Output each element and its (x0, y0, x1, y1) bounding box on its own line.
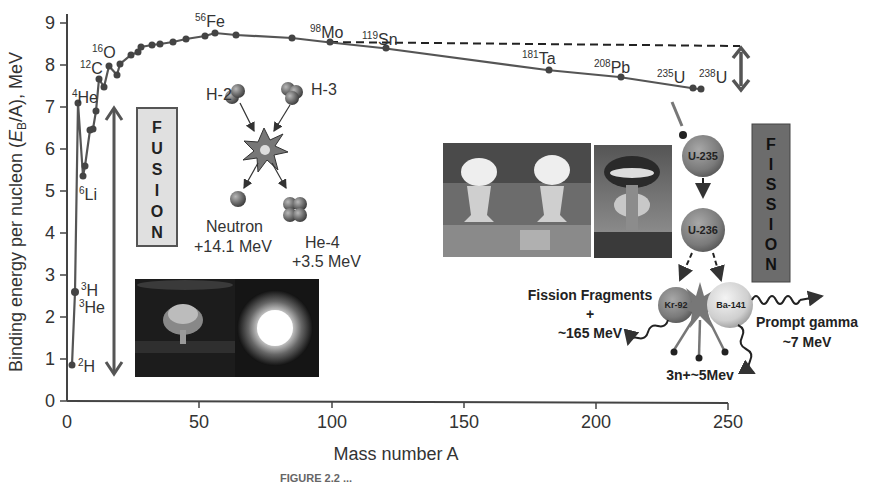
svg-text:F: F (152, 119, 162, 136)
svg-text:N: N (765, 256, 777, 273)
svg-text:Ba-141: Ba-141 (716, 300, 746, 310)
svg-text:7: 7 (45, 97, 55, 117)
figure-caption: FIGURE 2.2 ... (280, 472, 352, 484)
h3-nucleus-icon (281, 82, 303, 105)
incoming-neutron-icon (679, 131, 687, 139)
svg-text:0: 0 (45, 391, 55, 411)
svg-text:50: 50 (189, 412, 209, 432)
svg-text:N: N (151, 224, 163, 241)
mushroom-cloud-photo (594, 145, 672, 258)
label-98Mo: 98Mo (310, 23, 343, 41)
svg-text:H-3: H-3 (311, 81, 337, 98)
svg-text:I: I (155, 182, 159, 199)
label-6Li: 6Li (79, 185, 97, 203)
svg-text:U-235: U-235 (688, 150, 718, 162)
svg-text:O: O (151, 203, 163, 220)
svg-text:3: 3 (45, 265, 55, 285)
svg-text:3n+~5Mev: 3n+~5Mev (666, 367, 734, 383)
svg-text:0: 0 (62, 412, 72, 432)
svg-text:5: 5 (45, 181, 55, 201)
fusion-photo (135, 279, 319, 377)
label-119Sn: 119Sn (362, 30, 398, 48)
svg-text:U: U (151, 140, 163, 157)
svg-text:~165 MeV: ~165 MeV (558, 325, 623, 341)
svg-text:F: F (766, 136, 776, 153)
x-tick-labels: 0 50 100 150 200 250 (62, 412, 743, 432)
fusion-reaction-diagram (225, 82, 307, 222)
neutron-icon (230, 191, 246, 207)
svg-text:Kr-92: Kr-92 (664, 300, 687, 310)
svg-text:S: S (766, 196, 777, 213)
label-208Pb: 208Pb (594, 58, 630, 76)
svg-text:4: 4 (45, 223, 55, 243)
label-3He: 3He (79, 298, 105, 316)
label-12C: 12C (80, 59, 103, 77)
svg-text:250: 250 (713, 412, 743, 432)
svg-text:He-4: He-4 (305, 234, 340, 251)
svg-text:+14.1 MeV: +14.1 MeV (194, 238, 272, 255)
label-56Fe: 56Fe (195, 12, 225, 30)
svg-text:+3.5 MeV: +3.5 MeV (292, 253, 361, 270)
svg-text:+: + (586, 306, 594, 322)
svg-text:1: 1 (45, 349, 55, 369)
power-plant-photo (443, 143, 591, 257)
label-3H: 3H (81, 281, 98, 299)
svg-text:6: 6 (45, 139, 55, 159)
svg-text:Neutron: Neutron (206, 218, 263, 235)
label-2H: 2H (78, 357, 95, 375)
svg-text:100: 100 (317, 412, 347, 432)
label-238U: 238U (699, 68, 727, 86)
svg-text:8: 8 (45, 55, 55, 75)
svg-text:H-2: H-2 (206, 86, 232, 103)
y-tick-labels: 0 1 2 3 4 5 6 7 8 9 (45, 13, 55, 411)
svg-text:I: I (769, 216, 773, 233)
he4-nucleus-icon (283, 197, 307, 222)
svg-text:U-236: U-236 (688, 224, 718, 236)
svg-text:Prompt gamma: Prompt gamma (756, 314, 858, 330)
binding-energy-chart: 0 1 2 3 4 5 6 7 8 9 0 50 100 150 200 250… (0, 0, 870, 485)
incoming-neutron-track (672, 102, 682, 126)
svg-text:S: S (766, 176, 777, 193)
fusion-labels: H-2 H-3 Neutron +14.1 MeV He-4 +3.5 MeV (194, 81, 361, 270)
fusion-vertical-arrow-icon (106, 108, 122, 374)
svg-text:9: 9 (45, 13, 55, 33)
x-axis-label: Mass number A (333, 444, 458, 464)
double-arrow-icon (733, 48, 749, 90)
svg-text:S: S (152, 161, 163, 178)
y-axis-label: Binding energy per nucleon (EB/A), MeV (6, 52, 29, 372)
label-16O: 16O (92, 43, 116, 61)
svg-text:Fission Fragments: Fission Fragments (528, 287, 653, 303)
svg-text:I: I (769, 156, 773, 173)
svg-text:200: 200 (581, 412, 611, 432)
svg-text:~7 MeV: ~7 MeV (783, 334, 832, 350)
label-181Ta: 181Ta (522, 49, 556, 67)
svg-text:2: 2 (45, 307, 55, 327)
svg-text:150: 150 (449, 412, 479, 432)
svg-text:O: O (765, 236, 777, 253)
